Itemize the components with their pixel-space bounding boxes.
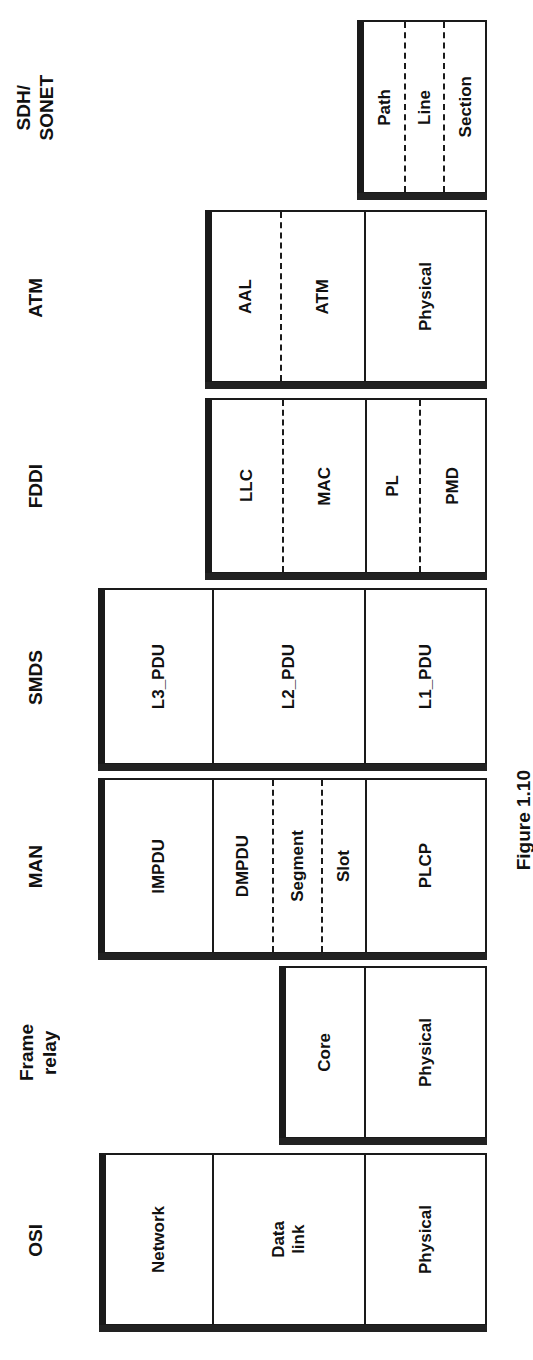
column-label-osi: OSI [15,1153,55,1328]
caption-text: Figure 1.10 [514,770,533,870]
layer-aal: AAL [212,212,280,381]
layer-label: ATM [313,279,333,315]
layer-label: Physical [416,1205,436,1274]
layer-label: Network [149,1206,169,1273]
column-label-text: SMDS [24,650,47,705]
layer-physical: Physical [366,1155,485,1324]
layer-plcp: PLCP [367,780,485,952]
layer-label: Physical [416,1018,436,1087]
layer-core: Core [286,968,364,1137]
layer-physical: Physical [366,212,485,381]
layer-label: IMPDU [149,839,169,894]
column-label-text: ATM [24,278,47,318]
layer-section: Section [445,22,487,192]
layer-label: Path [375,89,395,126]
layer-label: LLC [237,469,257,502]
layer-segment: Segment [274,780,321,952]
column-label-text: SDH/ SONET [12,75,58,140]
stack-osi: Network Data link Physical [104,1153,487,1326]
layer-label: L1_PDU [416,644,436,709]
column-label-atm: ATM [15,210,55,385]
stack-fddi: LLC MAC PL PMD [210,398,487,574]
layer-label: Physical [416,262,436,331]
layer-mac: MAC [284,400,365,572]
column-label-sdh-sonet: SDH/ SONET [10,20,60,195]
layer-impdu: IMPDU [105,780,212,952]
column-label-text: OSI [24,1224,47,1257]
layer-label: PMD [443,467,463,505]
layer-label: Core [315,1033,335,1072]
layer-label: Data link [269,1221,309,1258]
stack-frame-relay: Core Physical [284,966,487,1139]
layer-label: PL [383,475,403,497]
stack-atm: AAL ATM Physical [210,210,487,383]
column-label-text: MAN [24,845,47,888]
layer-line: Line [406,22,444,192]
layer-label: Segment [288,830,308,902]
column-label-fddi: FDDI [15,398,55,575]
stack-man: IMPDU DMPDU Segment Slot PLCP [103,778,487,954]
layer-llc: LLC [212,400,282,572]
column-label-text: FDDI [24,464,47,508]
column-label-man: MAN [15,778,55,955]
layer-label: Section [456,76,476,137]
stack-sdh-sonet: Path Line Section [362,20,487,194]
layer-label: Slot [334,850,354,882]
layer-label: AAL [236,279,256,314]
layer-label: L2_PDU [279,644,299,709]
layer-label: MAC [315,467,335,506]
column-label-smds: SMDS [15,588,55,766]
layer-slot: Slot [323,780,365,952]
column-label-text: Frame relay [15,1024,61,1081]
layer-l3-pdu: L3_PDU [105,590,212,763]
layer-path: Path [364,22,405,192]
layer-l2-pdu: L2_PDU [214,590,364,763]
layer-label: PLCP [416,843,436,888]
layer-network: Network [106,1155,212,1324]
layer-l1-pdu: L1_PDU [366,590,485,763]
layer-dmpdu: DMPDU [214,780,272,952]
figure-caption: Figure 1.10 [514,770,533,874]
column-label-frame-relay: Frame relay [10,965,65,1140]
layer-pl: PL [367,400,419,572]
layer-label: L3_PDU [149,644,169,709]
stack-smds: L3_PDU L2_PDU L1_PDU [103,588,487,765]
layer-atm: ATM [282,212,364,381]
layer-pmd: PMD [421,400,485,572]
layer-label: DMPDU [233,835,253,897]
layer-label: Line [415,90,435,125]
layer-physical: Physical [366,968,485,1137]
layer-data-link: Data link [214,1155,364,1324]
